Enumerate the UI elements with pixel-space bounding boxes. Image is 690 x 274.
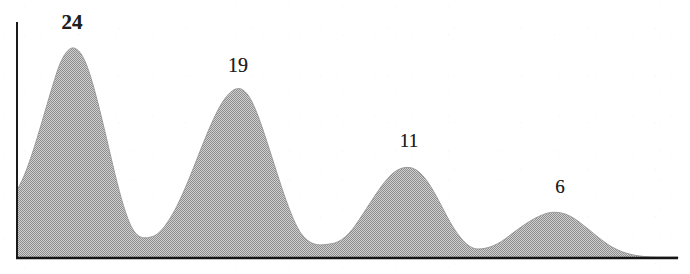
peak-label-4: 6 — [555, 177, 565, 196]
peak-label-2: 19 — [228, 55, 248, 75]
peak-label-3: 11 — [400, 131, 418, 150]
chart-plot-area — [0, 0, 690, 274]
density-curve-area — [17, 48, 678, 258]
peak-label-1: 24 — [62, 12, 83, 33]
scanned-area-chart-figure: 24 19 11 6 — [0, 0, 690, 274]
